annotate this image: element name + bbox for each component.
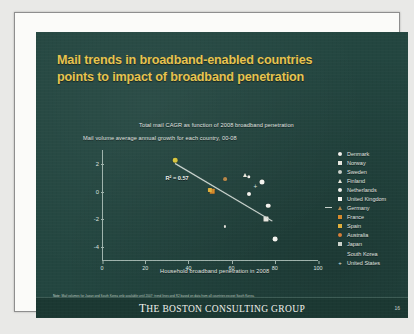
y-tick-mark [101, 219, 104, 220]
x-tick-mark [275, 261, 276, 264]
legend-marker-square-icon [338, 161, 342, 165]
slide-title: Mail trends in broadband-enabled countri… [57, 52, 387, 85]
legend-marker-circle-icon [338, 152, 342, 156]
data-point-spain [208, 188, 212, 192]
legend-item-south-korea[interactable]: South Korea [336, 249, 386, 258]
legend-marker-square-icon [338, 215, 342, 219]
legend-item-united-states[interactable]: +United States [336, 258, 386, 267]
x-tick-mark [145, 261, 146, 264]
legend-marker-icon [336, 197, 344, 201]
legend-marker-icon [336, 152, 344, 156]
y-tick-0: 0 [90, 189, 99, 195]
legend-marker-tri-icon [338, 179, 342, 183]
legend-marker-icon [336, 224, 344, 228]
legend-marker-icon [336, 188, 344, 192]
legend-item-japan[interactable]: Japan [336, 240, 386, 249]
chart-plot-area: 020406080100 20-2-4 + R² = 0.57 [102, 150, 318, 261]
x-tick-mark [188, 261, 189, 264]
legend-marker-circle-icon [338, 170, 342, 174]
legend-item-label: United Kingdom [347, 196, 386, 202]
legend-marker-icon [336, 206, 344, 210]
legend-item-label: France [347, 214, 364, 220]
y-tick-neg2: -2 [90, 216, 99, 222]
legend-marker-plus-icon: + [338, 260, 342, 266]
chart-legend: DenmarkNorwaySwedenFinlandNetherlandsUni… [336, 149, 386, 267]
legend-marker-square-icon [338, 242, 342, 246]
trendline [175, 163, 273, 222]
legend-marker-tri-icon [338, 206, 342, 210]
legend-item-label: Australia [347, 232, 368, 238]
x-tick-mark [318, 261, 319, 264]
legend-item-sweden[interactable]: Sweden [336, 167, 386, 176]
scatter-chart: 020406080100 20-2-4 + R² = 0.57 Househol… [76, 144, 328, 279]
slide-paper-frame: Mail trends in broadband-enabled countri… [14, 12, 400, 312]
legend-item-germany[interactable]: Germany [336, 204, 386, 213]
y-tick-mark [101, 247, 104, 248]
x-axis-label: Household broadband penetration in 2008 [160, 268, 269, 274]
data-point-denmark [259, 179, 264, 184]
chart-series-description: Mail volume average annual growth for ea… [83, 135, 237, 141]
legend-item-australia[interactable]: Australia [336, 231, 386, 240]
legend-item-label: Norway [347, 160, 366, 166]
legend-item-label: Denmark [347, 151, 369, 157]
data-point-japan [224, 225, 226, 227]
legend-item-finland[interactable]: Finland [336, 176, 386, 185]
legend-marker-square-icon [338, 224, 342, 228]
data-point-finland [243, 173, 247, 177]
y-tick-2: 2 [90, 161, 99, 167]
legend-item-label: Japan [347, 241, 362, 247]
legend-marker-icon [336, 215, 344, 219]
legend-marker-icon [336, 170, 344, 174]
data-point-germany [223, 177, 227, 181]
y-tick-mark [101, 164, 104, 165]
legend-item-norway[interactable]: Norway [336, 158, 386, 167]
data-point-united-kingdom [247, 192, 251, 196]
data-point-sweden [247, 175, 250, 178]
r-squared-annotation: R² = 0.57 [165, 175, 188, 181]
slide-title-line1: Mail trends in broadband-enabled countri… [57, 53, 312, 67]
bcg-logo-text: HE BOSTON CONSULTING GROUP [146, 304, 305, 314]
x-tick-80: 80 [272, 265, 278, 271]
legend-item-denmark[interactable]: Denmark [336, 149, 386, 158]
x-tick-100: 100 [314, 265, 323, 271]
slide-title-line2: points to impact of broadband penetratio… [57, 69, 387, 86]
data-point-australia [173, 158, 178, 163]
legend-item-france[interactable]: France [336, 213, 386, 222]
y-tick-neg4: -4 [90, 244, 99, 250]
x-tick-mark [102, 261, 103, 264]
data-point-united-states: + [253, 184, 257, 191]
chart-headline: Total mail CAGR as function of 2008 broa… [139, 122, 294, 128]
data-point-netherlands [266, 203, 271, 208]
legend-marker-icon [336, 179, 344, 183]
slide-footer: THE BOSTON CONSULTING GROUP 16 [36, 297, 408, 318]
bcg-logo: THE BOSTON CONSULTING GROUP [36, 302, 408, 314]
x-axis-line [102, 260, 318, 261]
legend-item-netherlands[interactable]: Netherlands [336, 185, 386, 194]
legend-marker-circle-icon [338, 233, 342, 237]
legend-connector [325, 207, 332, 208]
presentation-slide: Mail trends in broadband-enabled countri… [36, 32, 408, 318]
legend-marker-icon [336, 242, 344, 246]
legend-marker-icon [336, 233, 344, 237]
screenshot-canvas: Mail trends in broadband-enabled countri… [0, 0, 414, 334]
legend-item-spain[interactable]: Spain [336, 222, 386, 231]
page-number: 16 [394, 305, 400, 311]
data-point-south-korea [272, 236, 277, 241]
legend-item-label: South Korea [347, 251, 378, 257]
legend-item-label: Spain [347, 223, 361, 229]
y-tick-mark [101, 192, 104, 193]
legend-item-label: United States [347, 260, 380, 266]
legend-item-united-kingdom[interactable]: United Kingdom [336, 194, 386, 203]
y-axis-line [102, 150, 103, 261]
x-tick-20: 20 [142, 265, 148, 271]
legend-marker-circle-icon [338, 188, 342, 192]
legend-item-label: Germany [347, 205, 370, 211]
legend-item-label: Sweden [347, 169, 367, 175]
x-tick-mark [232, 261, 233, 264]
legend-marker-icon [336, 161, 344, 165]
legend-item-label: Finland [347, 178, 365, 184]
legend-marker-square-icon [338, 197, 342, 201]
legend-item-label: Netherlands [347, 187, 377, 193]
legend-marker-icon: + [336, 260, 344, 266]
x-tick-0: 0 [101, 265, 104, 271]
